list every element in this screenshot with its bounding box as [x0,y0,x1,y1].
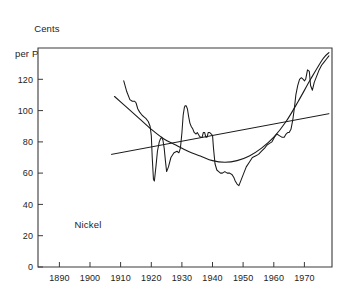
x-tick-label-1950: 1950 [233,273,253,283]
x-tick-label-1890: 1890 [49,273,69,283]
y-tick-label-80: 80 [23,137,33,147]
y-tick-label-60: 60 [23,168,33,178]
x-tick-label-1910: 1910 [110,273,130,283]
y-tick-label-40: 40 [23,200,33,210]
y-axis-tick-labels: 0 20 40 60 80 100 120 [18,75,33,273]
y-tick-label-100: 100 [18,106,33,116]
y-tick-label-120: 120 [18,75,33,85]
x-tick-label-1960: 1960 [264,273,284,283]
x-tick-label-1940: 1940 [202,273,222,283]
nickel-price-chart: 0 20 40 60 80 100 120 1890 1900 1910 192… [0,0,348,307]
plot-frame-rect [38,48,332,267]
x-tick-label-1900: 1900 [80,273,100,283]
x-tick-label-1970: 1970 [294,273,314,283]
y-tick-label-20: 20 [23,231,33,241]
x-axis-tick-labels: 1890 1900 1910 1920 1930 1940 1950 1960 … [49,273,314,283]
series-annotation-nickel: Nickel [74,219,101,230]
y-tick-label-0: 0 [28,262,33,272]
chart-figure: Cents per Pound 0 20 40 60 80 100 120 [0,0,348,307]
plot-frame [38,48,332,267]
x-tick-label-1930: 1930 [172,273,192,283]
x-tick-label-1920: 1920 [141,273,161,283]
